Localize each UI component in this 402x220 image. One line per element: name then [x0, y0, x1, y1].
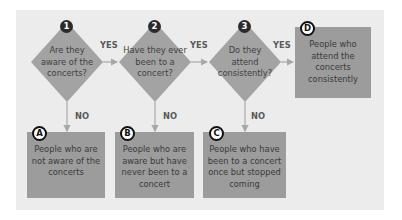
no-label-3: NO	[251, 111, 265, 121]
no-label-1: NO	[75, 111, 89, 121]
outcome-badge-a: A	[32, 126, 47, 141]
outcome-text-c: People who have been to a concert once b…	[205, 144, 284, 190]
outcome-badge-d: D	[300, 21, 315, 36]
step-badge-2: 2	[148, 20, 161, 33]
decision-question-3: Do they attend consistently?	[215, 45, 275, 80]
outcome-text-b: People who are aware but have never been…	[117, 144, 192, 190]
yes-label-1: YES	[100, 40, 118, 50]
yes-label-3: YES	[273, 40, 291, 50]
yes-label-2: YES	[190, 40, 208, 50]
decision-question-1: Are they aware of the concerts?	[37, 45, 97, 80]
step-badge-3: 3	[238, 20, 251, 33]
step-badge-1: 1	[60, 20, 73, 33]
no-label-2: NO	[163, 111, 177, 121]
outcome-badge-b: B	[120, 126, 135, 141]
outcome-text-a: People who are not aware of the concerts	[29, 144, 103, 179]
outcome-badge-c: C	[209, 126, 224, 141]
outcome-text-d: People who attend the concerts consisten…	[297, 39, 369, 85]
decision-question-2: Have they ever been to a concert?	[122, 45, 188, 80]
